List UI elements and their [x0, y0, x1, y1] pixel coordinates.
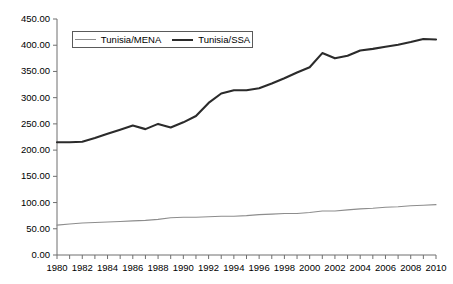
legend-item-tunisia-mena: Tunisia/MENA — [75, 35, 161, 45]
chart-legend: Tunisia/MENA Tunisia/SSA — [72, 31, 253, 48]
series-line-tunisia-mena — [57, 205, 436, 225]
y-axis-tick-label: 0.00 — [32, 250, 51, 260]
y-axis-tick-label: 250.00 — [21, 119, 50, 129]
y-axis-tick-label: 350.00 — [21, 66, 50, 76]
y-axis-tick-label: 50.00 — [26, 224, 50, 234]
legend-line-swatch-icon — [75, 39, 96, 40]
y-axis-tick-label: 400.00 — [21, 40, 50, 50]
data-series-group — [57, 39, 436, 225]
y-axis-tick-label: 200.00 — [21, 145, 50, 155]
y-axis-tick-label: 450.00 — [21, 14, 50, 24]
legend-item-tunisia-ssa: Tunisia/SSA — [172, 35, 250, 45]
y-axis-ticks — [53, 19, 57, 255]
y-axis-tick-label: 300.00 — [21, 93, 50, 103]
x-axis-tick-label: 2010 — [418, 263, 453, 273]
y-axis-tick-label: 150.00 — [21, 171, 50, 181]
legend-label: Tunisia/SSA — [198, 35, 250, 45]
series-line-tunisia-ssa — [57, 39, 436, 142]
line-chart: 0.0050.00100.00150.00200.00250.00300.003… — [0, 0, 453, 284]
legend-line-swatch-icon — [172, 39, 193, 41]
x-axis-ticks — [57, 255, 436, 259]
axes — [57, 19, 436, 255]
legend-label: Tunisia/MENA — [101, 35, 161, 45]
y-axis-tick-label: 100.00 — [21, 198, 50, 208]
